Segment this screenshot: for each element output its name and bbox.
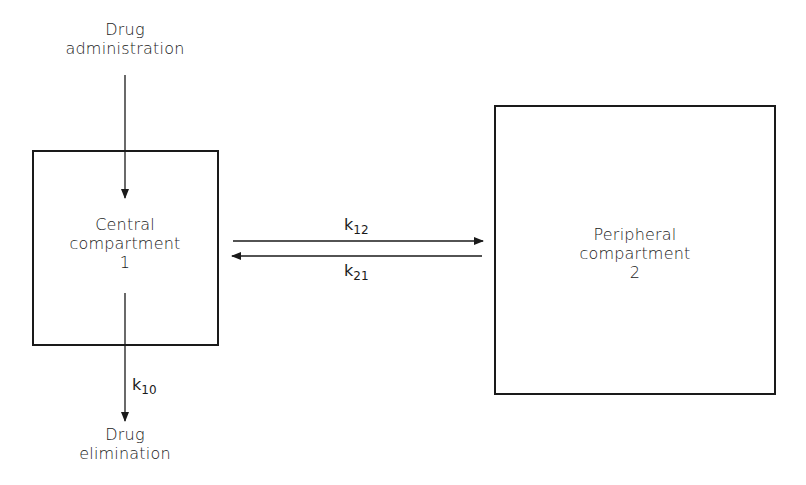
input-line2: administration: [45, 39, 205, 58]
k10-label: k10: [132, 376, 157, 399]
input-line1: Drug: [45, 20, 205, 39]
peripheral-line1: Peripheral: [555, 225, 715, 244]
central-number: 1: [45, 253, 205, 272]
output-line1: Drug: [45, 425, 205, 444]
central-line1: Central: [45, 215, 205, 234]
drug-administration-label: Drug administration: [45, 20, 205, 58]
peripheral-compartment-label: Peripheral compartment 2: [555, 225, 715, 282]
peripheral-line2: compartment: [555, 244, 715, 263]
drug-elimination-label: Drug elimination: [45, 425, 205, 463]
central-line2: compartment: [45, 234, 205, 253]
central-compartment-label: Central compartment 1: [45, 215, 205, 272]
output-line2: elimination: [45, 444, 205, 463]
k12-label: k12: [344, 216, 369, 239]
peripheral-number: 2: [555, 263, 715, 282]
k21-label: k21: [344, 262, 369, 285]
